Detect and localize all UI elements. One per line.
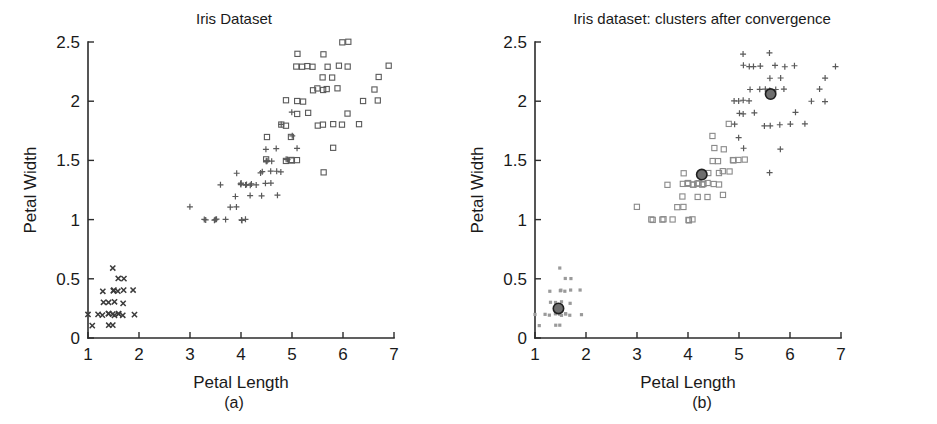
- data-point: [569, 302, 572, 305]
- data-point: [283, 98, 288, 103]
- data-point: [247, 193, 253, 199]
- data-point: [716, 182, 721, 187]
- data-point: [772, 62, 778, 68]
- data-point: [736, 98, 742, 104]
- data-point: [736, 157, 741, 162]
- data-point: [808, 98, 814, 104]
- data-point: [675, 205, 680, 210]
- data-point: [578, 288, 581, 291]
- data-point: [321, 170, 326, 175]
- data-point: [346, 39, 351, 44]
- data-point: [187, 204, 193, 210]
- data-point: [331, 145, 336, 150]
- data-point: [564, 277, 567, 280]
- data-point: [121, 301, 126, 306]
- data-point: [320, 122, 325, 127]
- data-point: [300, 99, 305, 104]
- data-point: [345, 111, 350, 116]
- data-point: [121, 287, 126, 292]
- data-point: [802, 121, 808, 127]
- panel-a-caption: (a): [0, 394, 468, 412]
- data-point: [375, 98, 380, 103]
- y-tick-label: 2.5: [56, 33, 80, 52]
- data-point: [681, 171, 686, 176]
- data-point: [767, 75, 773, 81]
- data-point: [294, 64, 299, 69]
- data-point: [110, 265, 115, 270]
- data-point: [325, 64, 330, 69]
- data-point: [289, 133, 295, 139]
- data-point: [538, 324, 541, 327]
- data-point: [792, 109, 798, 115]
- data-point: [742, 157, 747, 162]
- data-point: [548, 290, 551, 293]
- x-axis-title: Petal Length: [193, 373, 288, 392]
- data-point: [543, 313, 546, 316]
- data-point: [548, 314, 551, 317]
- data-point: [568, 314, 571, 317]
- data-point: [727, 169, 732, 174]
- y-axis-title: Petal Width: [468, 147, 487, 234]
- panel-b: Iris dataset: clusters after convergence…: [468, 0, 936, 424]
- data-point: [559, 289, 562, 292]
- data-point: [715, 159, 720, 164]
- data-point: [264, 134, 269, 139]
- data-point: [295, 51, 300, 56]
- y-tick-label: 2: [518, 92, 527, 111]
- y-tick-label: 1: [518, 211, 527, 230]
- data-point: [217, 182, 223, 188]
- data-point: [269, 158, 275, 164]
- data-point: [116, 276, 121, 281]
- data-point: [242, 216, 248, 222]
- data-point: [227, 204, 233, 210]
- y-tick-label: 1: [71, 211, 80, 230]
- data-point: [289, 109, 295, 115]
- y-tick-label: 1.5: [503, 151, 527, 170]
- y-tick-label: 0: [518, 329, 527, 348]
- y-tick-label: 2: [71, 92, 80, 111]
- data-point: [90, 323, 95, 328]
- panel-a-svg: 123456700.511.522.5Petal LengthPetal Wid…: [88, 42, 408, 352]
- data-point: [100, 289, 105, 294]
- y-tick-label: 0: [71, 329, 80, 348]
- data-point: [778, 75, 784, 81]
- x-tick-label: 3: [632, 345, 641, 364]
- panel-b-caption: (b): [468, 394, 936, 412]
- data-point: [310, 64, 315, 69]
- data-point: [822, 99, 828, 105]
- data-point: [670, 217, 675, 222]
- data-point: [294, 158, 299, 163]
- data-point: [110, 323, 115, 328]
- x-tick-label: 7: [836, 345, 845, 364]
- y-tick-label: 0.5: [56, 270, 80, 289]
- x-tick-label: 1: [530, 345, 539, 364]
- data-point: [101, 300, 106, 305]
- data-point: [746, 98, 752, 104]
- panel-b-title: Iris dataset: clusters after convergence: [468, 10, 936, 27]
- data-point: [750, 64, 756, 70]
- data-point: [569, 277, 572, 280]
- y-axis-title: Petal Width: [21, 147, 40, 234]
- data-point: [263, 146, 269, 152]
- data-point: [315, 123, 320, 128]
- data-point: [822, 75, 828, 81]
- x-tick-label: 1: [83, 345, 92, 364]
- data-point: [100, 313, 105, 318]
- data-point: [740, 51, 746, 57]
- data-point: [268, 168, 274, 174]
- series-virginica: [264, 39, 392, 175]
- data-point: [777, 122, 783, 128]
- data-point: [203, 217, 209, 223]
- data-point: [634, 204, 639, 209]
- data-point: [766, 50, 772, 56]
- data-point: [710, 158, 715, 163]
- x-tick-label: 6: [338, 345, 347, 364]
- data-point: [569, 288, 572, 291]
- data-point: [740, 97, 746, 103]
- data-point: [712, 145, 717, 150]
- centroid-marker: [553, 303, 563, 313]
- panel-b-svg: 123456700.511.522.5Petal LengthPetal Wid…: [535, 42, 855, 352]
- data-point: [294, 145, 300, 151]
- data-point: [558, 266, 561, 269]
- panel-a-title: Iris Dataset: [0, 10, 468, 27]
